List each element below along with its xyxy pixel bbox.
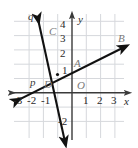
y-tick-1: 1 (62, 65, 68, 76)
x-axis-label: x (124, 96, 129, 107)
y-axis-label: y (78, 14, 83, 25)
point-label-A: A (74, 58, 81, 69)
point-label-C: C (49, 26, 56, 37)
x-tick-neg2: -2 (27, 95, 36, 106)
intersection-point (56, 73, 59, 76)
y-tick-2: 2 (60, 48, 66, 59)
x-tick-1: 1 (83, 95, 89, 106)
y-tick-neg2: -2 (58, 116, 67, 127)
origin-label: O (77, 80, 85, 91)
y-tick-3: 3 (60, 33, 66, 44)
x-tick-neg3: -3 (13, 95, 22, 106)
point-label-B: B (118, 33, 125, 44)
point-label-D: D (44, 79, 52, 90)
coordinate-plane-figure: y x O 4 3 2 1 -2 -3 -2 -1 1 2 3 q p A B … (0, 0, 138, 148)
plot-canvas (0, 0, 138, 148)
x-tick-3: 3 (111, 95, 117, 106)
line-label-q: q (28, 11, 34, 22)
x-tick-2: 2 (97, 95, 103, 106)
y-tick-4: 4 (60, 19, 66, 30)
x-tick-neg1: -1 (41, 95, 50, 106)
line-label-p: p (30, 77, 36, 88)
